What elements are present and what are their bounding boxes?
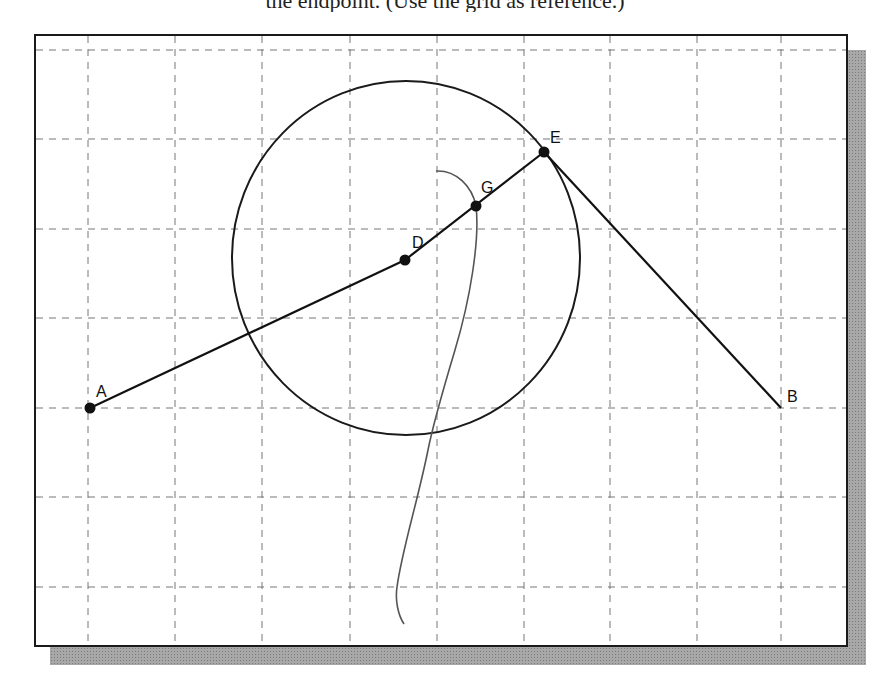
point-d-label: D (412, 234, 424, 251)
point-e-marker (539, 147, 550, 158)
line-segments (90, 152, 781, 408)
geometry-canvas: ADGEB (0, 0, 890, 685)
segment-ad (90, 260, 405, 408)
dashed-grid (36, 36, 846, 645)
point-a-marker (85, 403, 96, 414)
point-a-label: A (96, 383, 107, 400)
point-b-label: B (787, 388, 798, 405)
point-g-marker (471, 201, 482, 212)
point-e-label: E (550, 129, 561, 146)
point-g-label: G (481, 179, 493, 196)
point-d-marker (400, 255, 411, 266)
